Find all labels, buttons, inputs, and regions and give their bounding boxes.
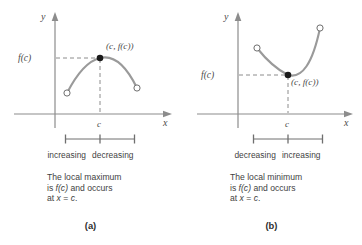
desc3-post: .: [75, 193, 77, 203]
desc2-math: f(c): [239, 183, 251, 193]
description-line-2: is f(c) and occurs: [230, 183, 362, 194]
desc2-math: f(c): [56, 183, 68, 193]
y-axis-label: y: [223, 11, 229, 22]
plot-local-minimum: y x (c, f(c)) f(c) c: [181, 0, 362, 135]
x-axis-label: x: [162, 117, 168, 128]
extremum-point-label: (c, f(c)): [291, 77, 319, 87]
x-axis-label: x: [343, 117, 349, 128]
description-line-3: at x = c.: [230, 193, 362, 204]
open-endpoint-right: [317, 25, 323, 31]
extremum-point-label: (c, f(c)): [106, 41, 134, 51]
x-axis: [14, 111, 172, 118]
function-value-label: f(c): [18, 53, 31, 64]
open-endpoint-left: [254, 45, 260, 51]
plot-local-maximum: y x (c, f(c)) f(c) c: [0, 0, 181, 135]
panel-letter-b: (b): [181, 220, 362, 231]
description-line-3: at x = c.: [47, 193, 181, 204]
trend-labels-max: increasingdecreasing: [0, 150, 181, 160]
open-endpoint-right: [134, 85, 140, 91]
interval-ruler-max: [0, 130, 181, 150]
trend-label-left: increasing: [47, 150, 86, 160]
figure-root: y x (c, f(c)) f(c) c: [0, 0, 362, 245]
c-tick-label: c: [285, 119, 289, 129]
desc3-post: .: [258, 193, 260, 203]
panel-local-minimum: y x (c, f(c)) f(c) c: [181, 0, 362, 245]
description-line-2: is f(c) and occurs: [47, 183, 181, 194]
desc2-post: and occurs: [251, 183, 295, 193]
description-max: The local maximum is f(c) and occurs at …: [47, 172, 181, 204]
desc2-post: and occurs: [68, 183, 112, 193]
trend-label-right: decreasing: [92, 150, 133, 160]
function-curve: [67, 57, 137, 93]
c-tick-label: c: [97, 119, 101, 129]
open-endpoint-left: [64, 90, 70, 96]
panel-letter-a: (a): [0, 220, 181, 231]
desc3-pre: at: [47, 193, 57, 203]
interval-ruler-min: [181, 130, 362, 150]
desc3-eq: =: [61, 193, 71, 203]
trend-label-right: increasing: [282, 150, 321, 160]
desc2-pre: is: [230, 183, 239, 193]
panel-local-maximum: y x (c, f(c)) f(c) c: [0, 0, 181, 245]
y-axis: [52, 12, 59, 128]
x-axis: [197, 111, 353, 118]
description-line-1: The local minimum: [230, 172, 362, 183]
desc2-pre: is: [47, 183, 56, 193]
desc3-eq: =: [244, 193, 254, 203]
function-value-label: f(c): [201, 70, 214, 81]
y-axis: [235, 12, 242, 128]
function-curve: [257, 28, 320, 76]
trend-label-left: decreasing: [234, 150, 275, 160]
description-min: The local minimum is f(c) and occurs at …: [230, 172, 362, 204]
y-axis-label: y: [40, 11, 46, 22]
desc3-pre: at: [230, 193, 240, 203]
description-line-1: The local maximum: [47, 172, 181, 183]
extremum-point: [97, 55, 104, 62]
trend-labels-min: decreasingincreasing: [187, 150, 362, 160]
